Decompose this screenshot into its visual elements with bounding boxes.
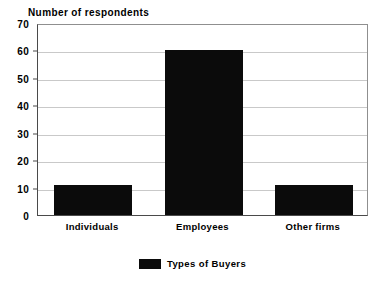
y-tick-label: 10 bbox=[17, 183, 29, 194]
x-tick-label: Individuals bbox=[66, 221, 119, 232]
x-tick-label: Employees bbox=[176, 221, 229, 232]
bar bbox=[165, 50, 243, 215]
legend-swatch-types-of-buyers bbox=[139, 259, 161, 269]
bars-layer bbox=[38, 25, 367, 215]
bar-chart-figure: Number of respondents 010203040506070 In… bbox=[0, 0, 385, 281]
bar bbox=[54, 185, 132, 215]
y-tick-label: 0 bbox=[23, 211, 29, 222]
x-tick-label: Other firms bbox=[286, 221, 341, 232]
chart-title: Number of respondents bbox=[28, 7, 149, 18]
bar bbox=[275, 185, 353, 215]
legend-label: Types of Buyers bbox=[167, 258, 246, 269]
y-tick-label: 70 bbox=[17, 19, 29, 30]
plot-area bbox=[37, 24, 368, 216]
y-axis: 010203040506070 bbox=[0, 24, 37, 216]
y-tick-label: 20 bbox=[17, 156, 29, 167]
y-tick-label: 40 bbox=[17, 101, 29, 112]
y-tick-label: 50 bbox=[17, 73, 29, 84]
legend-entry: Types of Buyers bbox=[139, 258, 246, 269]
y-tick-label: 30 bbox=[17, 128, 29, 139]
y-tick-label: 60 bbox=[17, 46, 29, 57]
chart-legend: Types of Buyers bbox=[0, 258, 385, 269]
x-axis: IndividualsEmployeesOther firms bbox=[37, 219, 368, 237]
